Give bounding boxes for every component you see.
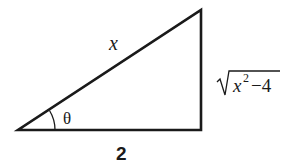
opposite-label-sqrt: x 2 −4 [217, 71, 280, 96]
hypotenuse-label: x [108, 32, 118, 54]
radicand-rest: −4 [251, 75, 272, 96]
radicand-variable: x [232, 75, 242, 96]
angle-label-theta: θ [63, 109, 71, 128]
angle-arc [50, 111, 56, 131]
triangle [18, 10, 201, 130]
radicand-exponent: 2 [243, 71, 249, 85]
right-triangle-diagram: θ x 2 x 2 −4 [0, 0, 294, 166]
adjacent-label: 2 [116, 143, 127, 164]
